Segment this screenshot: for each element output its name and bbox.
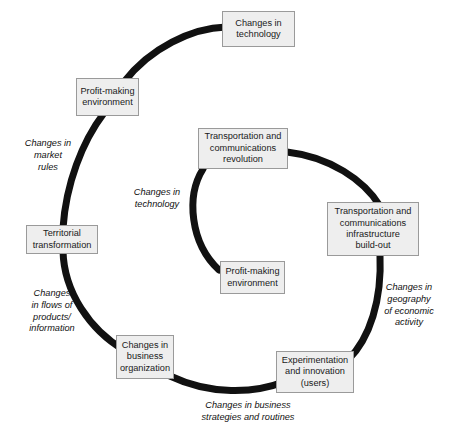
edge-label-changes-in-technology-inner: Changes in technology [124,187,190,211]
edge-label-changes-in-business-strategies: Changes in business strategies and routi… [168,400,328,424]
node-label: Profit-making environment [80,86,134,109]
node-label: Profit-making environment [225,266,279,289]
inner-arc-revolution-to-profit [193,169,219,270]
node-profit-making-environment-outer[interactable]: Profit-making environment [76,78,139,116]
node-transportation-communications-infrastructure[interactable]: Transportation and communications infras… [327,202,419,256]
node-changes-in-technology[interactable]: Changes in technology [222,11,295,47]
node-label: Transportation and communications infras… [335,206,412,252]
node-label: Changes in business organization [120,340,170,374]
node-label: Territorial transformation [33,228,92,251]
edge-label-changes-in-geography: Changes in geography of economic activit… [374,282,444,329]
outer-arc-business-to-experimentation [170,376,286,391]
node-territorial-transformation[interactable]: Territorial transformation [26,225,98,254]
node-label: Experimentation and innovation (users) [282,355,348,389]
inner-arc-revolution-to-infrastructure [287,152,380,206]
edge-label-changes-in-market-rules: Changes in market rules [14,138,82,173]
node-transportation-communications-revolution[interactable]: Transportation and communications revolu… [198,128,288,169]
node-experimentation-and-innovation[interactable]: Experimentation and innovation (users) [276,351,354,393]
outer-arc-profit-to-technology [124,27,226,82]
node-profit-making-environment-inner[interactable]: Profit-making environment [220,261,285,294]
node-label: Transportation and communications revolu… [205,131,282,165]
node-changes-in-business-organization[interactable]: Changes in business organization [116,335,174,379]
edge-label-changes-in-flows: Changes in flows of products/ informatio… [16,288,88,335]
diagram-canvas: Changes in technology Profit-making envi… [0,0,450,437]
node-label: Changes in technology [235,18,281,41]
